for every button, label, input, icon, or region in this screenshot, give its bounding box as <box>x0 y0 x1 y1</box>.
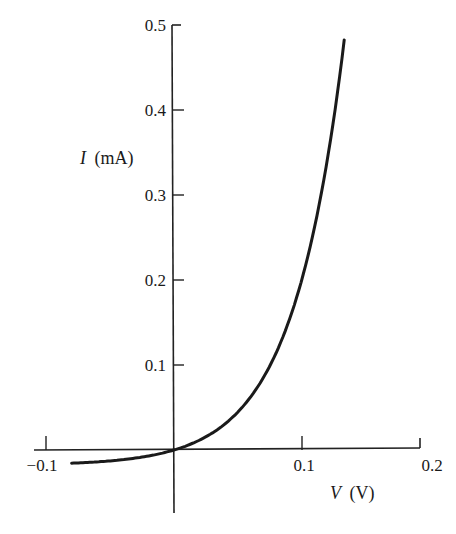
x-tick-label: −0.1 <box>27 456 58 475</box>
x-axis <box>34 448 420 450</box>
y-axis <box>172 25 174 513</box>
y-tick-label: 0.1 <box>145 356 166 375</box>
iv-curve <box>72 40 345 463</box>
axes <box>34 25 420 513</box>
x-tick-label: 0.2 <box>421 456 442 475</box>
tick-labels: −0.10.10.20.10.20.30.40.5 <box>27 16 443 475</box>
x-axis-label: V (V) <box>330 483 375 504</box>
y-tick-label: 0.3 <box>145 186 166 205</box>
y-axis-label: I (mA) <box>79 148 134 169</box>
iv-chart: −0.10.10.20.10.20.30.40.5 I (mA) V (V) <box>0 0 456 534</box>
y-tick-label: 0.4 <box>145 101 167 120</box>
y-tick-label: 0.2 <box>145 271 166 290</box>
y-tick-label: 0.5 <box>145 16 166 35</box>
x-tick-label: 0.1 <box>293 456 314 475</box>
